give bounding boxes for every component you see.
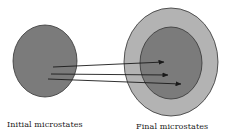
initial-microstates-label: Initial microstates [7, 120, 83, 129]
initial-microstates-ellipse [13, 25, 77, 97]
microstates-diagram [0, 0, 230, 137]
final-microstates-label: Final microstates [136, 122, 208, 131]
